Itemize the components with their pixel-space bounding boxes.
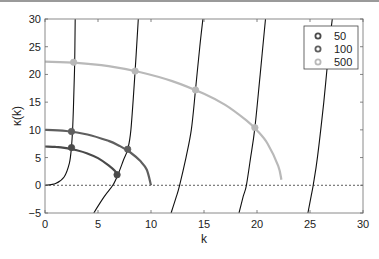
x-tick-labels: 051015202530 — [42, 218, 369, 230]
x-tick-label: 20 — [251, 218, 263, 230]
series-markers — [68, 59, 258, 178]
marker-50 — [114, 172, 120, 178]
y-tick-labels: −5051015202530 — [28, 13, 41, 219]
dispersion-curves — [45, 19, 332, 213]
marker-100 — [68, 128, 74, 134]
marker-500 — [252, 124, 258, 130]
legend-label-50: 50 — [334, 30, 346, 42]
legend-label-500: 500 — [334, 56, 352, 68]
y-tick-label: 10 — [29, 124, 41, 136]
y-tick-label: −5 — [28, 207, 41, 219]
y-tick-label: 15 — [29, 96, 41, 108]
x-tick-label: 15 — [198, 218, 210, 230]
dispersion-branch-4 — [239, 19, 266, 213]
x-tick-label: 0 — [42, 218, 48, 230]
marker-500 — [70, 59, 76, 65]
x-tick-label: 30 — [357, 218, 369, 230]
dispersion-branch-2 — [94, 19, 139, 213]
y-tick-label: 25 — [29, 41, 41, 53]
chart: 051015202530 −5051015202530 k κ(k) 50100… — [0, 0, 379, 259]
marker-100 — [124, 146, 130, 152]
legend-label-100: 100 — [334, 43, 352, 55]
y-tick-label: 20 — [29, 68, 41, 80]
series-curves — [45, 62, 281, 186]
legend: 50100500 — [304, 26, 358, 69]
dispersion-branch-1 — [45, 19, 75, 185]
y-tick-label: 30 — [29, 13, 41, 25]
y-tick-label: 5 — [35, 152, 41, 164]
x-tick-label: 10 — [145, 218, 157, 230]
marker-50 — [68, 144, 74, 150]
dispersion-branch-3 — [171, 19, 203, 213]
series-curve-500 — [45, 62, 281, 180]
y-tick-label: 0 — [35, 179, 41, 191]
y-axis-label: κ(k) — [10, 106, 24, 126]
x-axis-label: k — [201, 232, 208, 246]
x-tick-label: 25 — [304, 218, 316, 230]
series-curve-50 — [45, 147, 119, 177]
marker-500 — [192, 87, 198, 93]
marker-500 — [132, 68, 138, 74]
x-tick-label: 5 — [95, 218, 101, 230]
